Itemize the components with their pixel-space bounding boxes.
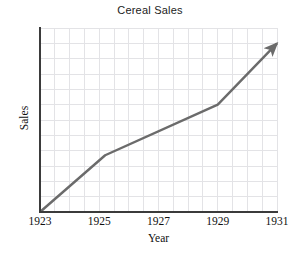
x-tick-label-1929: 1929 [206,215,229,227]
x-tick-label-1925: 1925 [88,215,111,227]
chart-title: Cereal Sales [0,4,300,16]
x-axis-title: Year [40,232,277,244]
x-axis-line [39,211,278,213]
x-tick-label-1931: 1931 [266,215,289,227]
series-line-cereal-sales [40,28,277,212]
y-axis-title: Sales [18,88,30,148]
cereal-sales-chart: Cereal Sales 19231925192719291931 Year S… [0,0,300,253]
y-axis-line [39,27,41,213]
plot-area [40,28,277,212]
x-tick-label-1923: 1923 [29,215,52,227]
x-tick-label-1927: 1927 [147,215,170,227]
